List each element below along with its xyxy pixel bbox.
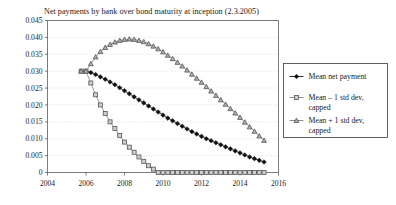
series-marker-square <box>238 171 242 175</box>
series-marker-diamond <box>257 158 262 163</box>
series-marker-diamond <box>127 91 132 96</box>
chart-title: Net payments by bank over bond maturity … <box>44 7 259 16</box>
series-marker-diamond <box>137 98 142 103</box>
chart-legend: Mean net paymentMean – 1 std dev,cappedM… <box>284 64 388 138</box>
series-marker-diamond <box>113 82 118 87</box>
series-marker-diamond <box>146 104 151 109</box>
series-marker-diamond <box>243 153 248 158</box>
gridlines <box>48 21 279 156</box>
series-marker-diamond <box>170 119 175 124</box>
series-marker-square <box>161 171 165 175</box>
series-marker-diamond <box>233 149 238 154</box>
series-marker-square <box>190 171 194 175</box>
x-axis-tick-label: 2010 <box>155 179 170 188</box>
series-marker-square <box>214 171 218 175</box>
series-marker-diamond <box>199 134 204 139</box>
y-axis-tick-label: 0.020 <box>25 101 42 110</box>
x-axis-tick-label: 2006 <box>78 179 93 188</box>
series-marker-diamond <box>228 147 233 152</box>
series-marker-diamond <box>98 75 103 80</box>
y-axis-tick-label: 0.025 <box>25 84 42 93</box>
series-marker-square <box>200 171 204 175</box>
series-marker-triangle <box>103 45 108 49</box>
y-axis-tick-label: 0.010 <box>25 134 42 143</box>
series-marker-square <box>108 120 112 124</box>
series-marker-diamond <box>141 101 146 106</box>
series-marker-diamond <box>209 138 214 143</box>
series-marker-square <box>228 171 232 175</box>
series-marker-diamond <box>122 88 127 93</box>
series-marker-diamond <box>223 145 228 150</box>
series-marker-diamond <box>117 85 122 90</box>
chart-container: Net payments by bank over bond maturity … <box>0 0 396 205</box>
series-marker-square <box>98 103 102 107</box>
series-marker-square <box>166 171 170 175</box>
series-marker-square <box>137 155 141 159</box>
series-marker-square <box>180 171 184 175</box>
series-marker-diamond <box>185 127 190 132</box>
legend-entry-label: Mean + 1 std dev, <box>309 116 365 125</box>
x-axis-tick-label: 2012 <box>194 179 209 188</box>
series-marker-square <box>209 171 213 175</box>
series-marker-triangle <box>151 44 156 48</box>
series-marker-square <box>113 127 117 131</box>
series-marker-triangle <box>170 56 175 60</box>
series-line <box>81 71 264 162</box>
series-marker-diamond <box>252 156 257 161</box>
series-marker-square <box>243 171 247 175</box>
series-marker-square <box>252 171 256 175</box>
y-axis-tick-label: 0.030 <box>25 67 42 76</box>
series-marker-diamond <box>190 129 195 134</box>
y-axis-tick-label: 0.045 <box>25 16 42 25</box>
y-axis-tick-label: 0.040 <box>25 33 42 42</box>
series-marker-square <box>233 171 237 175</box>
x-axis-tick-label: 2004 <box>40 179 55 188</box>
series-marker-square <box>262 171 266 175</box>
y-axis-tick-label: 0.005 <box>25 151 42 160</box>
series-marker-square <box>151 167 155 171</box>
series-marker-diamond <box>180 124 185 129</box>
series-marker-square <box>103 111 107 115</box>
series-marker-diamond <box>238 151 243 156</box>
series-marker-diamond <box>156 110 161 115</box>
data-series-layer <box>79 37 267 175</box>
series-marker-square <box>132 150 136 154</box>
series-marker-diamond <box>132 95 137 100</box>
series-marker-diamond <box>108 80 113 85</box>
series-marker-diamond <box>166 116 171 121</box>
series-marker-diamond <box>204 136 209 141</box>
x-axis-tick-label: 2014 <box>232 179 247 188</box>
series-marker-diamond <box>194 132 199 137</box>
legend-entry-label-cont: capped <box>309 103 331 112</box>
series-marker-square <box>175 171 179 175</box>
legend-marker-square <box>295 96 299 100</box>
legend-entry-label: Mean net payment <box>309 72 368 81</box>
series-marker-diamond <box>103 77 108 82</box>
series-marker-square <box>118 133 122 137</box>
data-series <box>79 37 267 143</box>
legend-entry-label: Mean – 1 std dev, <box>309 93 364 102</box>
series-marker-triangle <box>165 53 170 57</box>
series-marker-triangle <box>108 42 113 46</box>
series-marker-square <box>147 164 151 168</box>
series-marker-triangle <box>146 41 151 45</box>
series-marker-diamond <box>93 72 98 77</box>
series-marker-square <box>195 171 199 175</box>
series-marker-square <box>248 171 252 175</box>
x-axis-tick-label: 2016 <box>271 179 286 188</box>
series-marker-square <box>224 171 228 175</box>
series-marker-square <box>219 171 223 175</box>
series-marker-square <box>89 81 93 85</box>
series-marker-square <box>156 171 160 175</box>
series-marker-square <box>185 171 189 175</box>
series-marker-triangle <box>161 50 166 54</box>
chart-figure: Net payments by bank over bond maturity … <box>0 0 396 205</box>
series-marker-square <box>94 93 98 97</box>
series-marker-triangle <box>156 46 161 50</box>
series-marker-diamond <box>262 160 267 165</box>
y-axis-tick-label: 0.035 <box>25 50 42 59</box>
series-marker-diamond <box>214 140 219 145</box>
x-axis-tick-label: 2008 <box>117 179 132 188</box>
legend-entry-label-cont: capped <box>309 126 331 135</box>
y-axis-tick-label: 0 <box>39 168 43 177</box>
